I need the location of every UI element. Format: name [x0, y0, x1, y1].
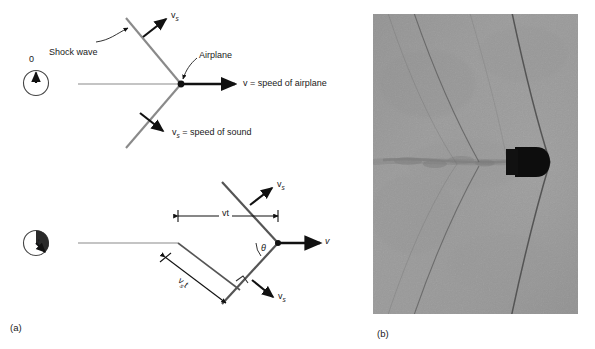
velocity-arrow-sound-lower-bottom [252, 280, 273, 297]
clock-label-time-zero: 0 [29, 55, 34, 64]
vector-label-vs-lower-bottom: vs [278, 292, 286, 303]
velocity-label-bottom: v [325, 237, 330, 246]
clock-icon-time-zero [24, 71, 49, 96]
vs-upper-bottom-sub: s [282, 184, 285, 191]
panel-letter-a: (a) [10, 322, 22, 333]
leader-line-shock-wave [96, 28, 128, 42]
velocity-text-rest: = speed of airplane [248, 78, 327, 88]
dimension-label-vt: vt [219, 209, 232, 218]
figure-shock-wave-mach-cone: 0 t Shock wave Airplane v = speed of air… [0, 0, 595, 349]
clock-label-time-t: t [37, 238, 40, 247]
vector-label-vs-upper-top: vs [171, 11, 179, 22]
velocity-sound-label: vs = speed of sound [172, 128, 252, 139]
panel-b-photograph [373, 14, 578, 314]
schlieren-photo-graphics [373, 14, 578, 314]
angle-label-theta: θ [261, 244, 266, 253]
panel-a-diagram: 0 t Shock wave Airplane v = speed of air… [0, 0, 355, 349]
panel-letter-b: (b) [377, 328, 389, 339]
dimension-line-vst [165, 257, 226, 303]
vt-t: t [227, 208, 230, 218]
velocity-arrow-sound-upper-top [143, 19, 166, 37]
bullet-silhouette [515, 147, 550, 177]
airplane-label: Airplane [199, 51, 232, 60]
velocity-arrow-sound-upper-bottom [250, 188, 272, 205]
shock-wave-label: Shock wave [49, 48, 98, 57]
vector-label-vs-upper-bottom: vs [277, 180, 285, 191]
leader-line-airplane [183, 58, 197, 79]
bullet-tail [506, 149, 518, 175]
vs-lower-bottom-sub: s [283, 296, 286, 303]
sound-text-rest: = speed of sound [180, 127, 252, 137]
velocity-airplane-label: v = speed of airplane [243, 79, 327, 88]
vs-upper-top-sub: s [176, 15, 179, 22]
